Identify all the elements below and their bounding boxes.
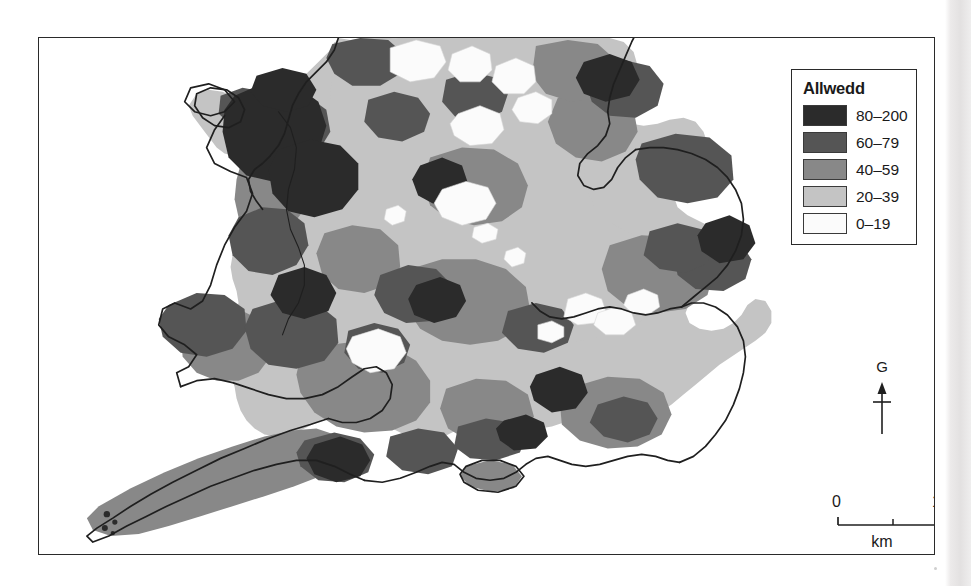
legend-item-40-59[interactable]: 40–59 (803, 159, 906, 180)
north-arrow-label: G (861, 358, 903, 375)
legend-label-0-19: 0–19 (856, 215, 890, 233)
scale-bar-units-label: km (791, 533, 935, 551)
scale-bar-max-label: 100 (932, 493, 935, 511)
legend-swatch-80-200 (803, 105, 847, 126)
legend-label-60-79: 60–79 (856, 134, 899, 152)
legend-label-20-39: 20–39 (856, 188, 899, 206)
legend-item-20-39[interactable]: 20–39 (803, 186, 906, 207)
legend-swatch-40-59 (803, 159, 847, 180)
legend-item-80-200[interactable]: 80–200 (803, 105, 906, 126)
legend-item-0-19[interactable]: 0–19 (803, 213, 906, 234)
legend-swatch-20-39 (803, 186, 847, 207)
scale-bar: 0 100 km (791, 493, 935, 555)
page-edge-artifact (945, 0, 971, 586)
north-arrow: G (861, 360, 903, 436)
map-legend: Allwedd 80–200 60–79 40–59 20–39 0–19 (791, 69, 917, 245)
legend-label-80-200: 80–200 (856, 107, 908, 125)
legend-swatch-0-19 (803, 213, 847, 234)
map-frame: Allwedd 80–200 60–79 40–59 20–39 0–19 G (38, 37, 935, 555)
scale-bar-graphic (791, 513, 935, 535)
scale-bar-numbers: 0 100 (791, 493, 935, 513)
legend-item-60-79[interactable]: 60–79 (803, 132, 906, 153)
scale-bar-min-label: 0 (832, 493, 841, 511)
page-speck (934, 567, 937, 570)
legend-swatch-60-79 (803, 132, 847, 153)
legend-label-40-59: 40–59 (856, 161, 899, 179)
legend-title: Allwedd (803, 79, 906, 98)
